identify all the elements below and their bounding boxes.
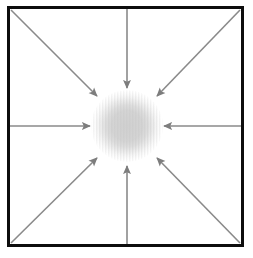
figure-canvas: Radial convergence diagram Square black … [0,0,253,258]
convergence-diagram: Radial convergence diagram Square black … [0,0,253,258]
center-blob-group [91,90,163,162]
center-blob-stripes-icon [91,90,163,162]
